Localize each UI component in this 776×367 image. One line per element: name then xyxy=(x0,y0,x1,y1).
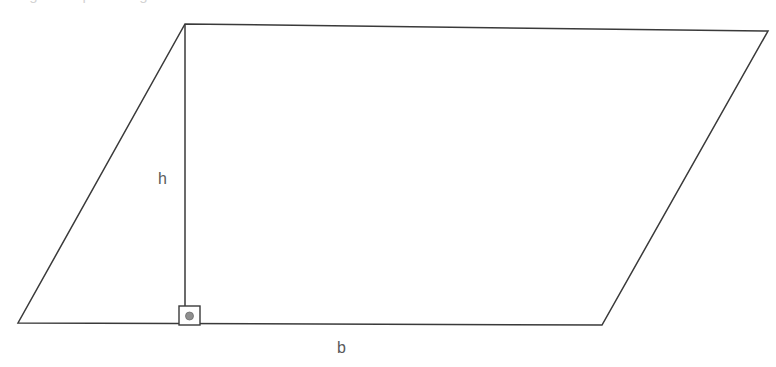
right-angle-marker-dot xyxy=(186,312,194,320)
parallelogram-figure xyxy=(0,0,776,367)
base-label: b xyxy=(337,340,346,356)
diagram-canvas: triangle and parallelogram Area formula … xyxy=(0,0,776,367)
height-label: h xyxy=(158,171,167,187)
parallelogram-outline xyxy=(18,24,768,325)
